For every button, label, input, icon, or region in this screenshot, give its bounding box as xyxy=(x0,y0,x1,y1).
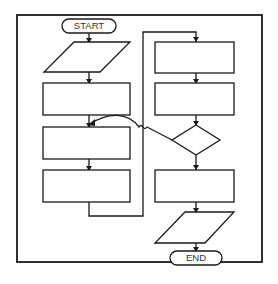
input-output-parallelogram-2 xyxy=(155,212,234,243)
process-box-3 xyxy=(43,170,130,202)
process-box-6 xyxy=(155,170,234,202)
input-output-parallelogram-1 xyxy=(44,42,130,72)
arrow-head-icon xyxy=(193,165,199,170)
process-box-1 xyxy=(43,83,130,115)
flowchart-canvas: START END xyxy=(0,0,278,284)
process-box-4 xyxy=(155,42,234,73)
process-box-2 xyxy=(43,127,130,159)
process-box-5 xyxy=(155,83,234,115)
end-terminator: END xyxy=(170,251,222,265)
start-terminator: START xyxy=(62,19,116,33)
arrow-head-icon xyxy=(193,37,199,42)
start-label: START xyxy=(74,20,104,31)
end-label: END xyxy=(186,252,206,263)
decision-diamond xyxy=(172,125,220,155)
